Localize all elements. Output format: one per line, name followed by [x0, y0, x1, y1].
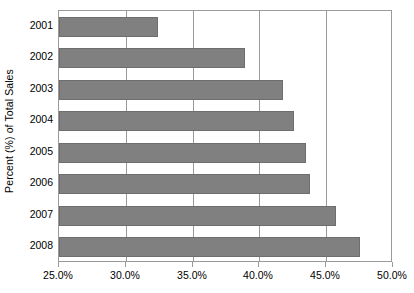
y-tick-label-2004: 2004: [15, 114, 53, 125]
y-axis-title: Percent (%) of Total Sales: [0, 0, 18, 262]
x-tick: [392, 262, 393, 267]
x-tick-label-25.0%: 25.0%: [43, 269, 73, 281]
x-tick: [125, 262, 126, 267]
y-tick-label-2005: 2005: [15, 146, 53, 157]
x-tick-label-45.0%: 45.0%: [310, 269, 340, 281]
bar-2003: [59, 80, 283, 100]
y-tick-label-2002: 2002: [15, 51, 53, 62]
y-axis-title-text: Percent (%) of Total Sales: [3, 69, 15, 193]
bar-chart: Percent (%) of Total Sales 2001200220032…: [0, 0, 414, 293]
x-tick: [325, 262, 326, 267]
bar-2007: [59, 206, 336, 226]
plot-area: [58, 10, 392, 262]
x-tick-label-30.0%: 30.0%: [110, 269, 140, 281]
x-tick-label-40.0%: 40.0%: [243, 269, 273, 281]
x-tick: [192, 262, 193, 267]
y-tick-label-2007: 2007: [15, 209, 53, 220]
bar-2008: [59, 237, 360, 257]
bar-2005: [59, 143, 306, 163]
bar-2002: [59, 48, 245, 68]
bar-2004: [59, 111, 294, 131]
bar-2001: [59, 17, 158, 37]
y-axis-tick-labels: 20012002200320042005200620072008: [18, 10, 56, 262]
x-tick-label-50.0%: 50.0%: [377, 269, 407, 281]
y-tick-label-2008: 2008: [15, 240, 53, 251]
y-tick-label-2003: 2003: [15, 83, 53, 94]
bar-2006: [59, 174, 310, 194]
x-tick-label-35.0%: 35.0%: [177, 269, 207, 281]
y-tick-label-2006: 2006: [15, 177, 53, 188]
y-tick-label-2001: 2001: [15, 20, 53, 31]
x-tick: [258, 262, 259, 267]
x-tick: [58, 262, 59, 267]
